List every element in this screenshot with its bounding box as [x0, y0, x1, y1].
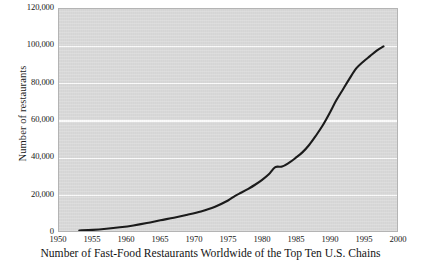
y-axis-tick-labels: 020,00040,00060,00080,000100,000120,000	[0, 0, 54, 266]
figure-caption: Number of Fast-Food Restaurants Worldwid…	[0, 246, 421, 261]
x-tick-label: 2000	[378, 234, 418, 245]
series-line	[59, 9, 397, 231]
y-tick-label: 60,000	[6, 115, 54, 124]
y-tick-label: 20,000	[6, 190, 54, 199]
plot-area	[58, 8, 398, 232]
chart-figure: Number of restaurants 020,00040,00060,00…	[0, 0, 421, 266]
y-tick-label: 120,000	[6, 3, 54, 12]
y-tick-label: 80,000	[6, 78, 54, 87]
series-path	[79, 46, 383, 230]
y-tick-label: 100,000	[6, 40, 54, 49]
y-tick-label: 40,000	[6, 152, 54, 161]
